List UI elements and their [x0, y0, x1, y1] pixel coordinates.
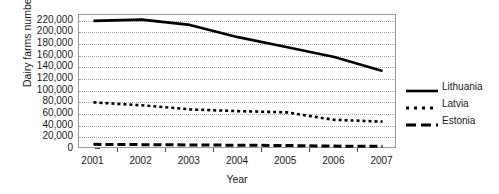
x-tick-label: 2003 [178, 155, 200, 167]
series-lines [79, 15, 397, 149]
series-line-latvia [93, 102, 382, 121]
y-tick-label: 40,000 [42, 120, 73, 130]
x-tick-label: 2005 [274, 155, 296, 167]
x-tick-label: 2004 [226, 155, 248, 167]
x-tick-mark [261, 148, 262, 152]
y-tick-label: 220,000 [37, 15, 73, 25]
x-axis-tick-marks [78, 148, 396, 153]
y-tick-label: 200,000 [37, 26, 73, 36]
dairy-farms-line-chart: Dairy farms number 020,00040,00060,00080… [0, 0, 499, 194]
legend-swatch-solid-icon [406, 82, 438, 92]
x-tick-mark [213, 148, 214, 152]
y-axis-tick-labels: 020,00040,00060,00080,000100,000120,0001… [22, 0, 76, 194]
plot-area [78, 14, 396, 148]
x-tick-label: 2001 [81, 155, 103, 167]
chart-legend: LithuaniaLatviaEstonia [406, 80, 498, 131]
series-line-estonia [93, 144, 382, 146]
legend-label: Estonia [442, 116, 475, 126]
y-tick-label: 160,000 [37, 50, 73, 60]
x-tick-label: 2002 [130, 155, 152, 167]
legend-swatch-dashed-icon [406, 116, 438, 126]
legend-item-estonia[interactable]: Estonia [406, 114, 498, 128]
y-tick-label: 140,000 [37, 61, 73, 71]
series-line-lithuania [93, 20, 382, 71]
y-tick-label: 120,000 [37, 73, 73, 83]
x-tick-mark [117, 148, 118, 152]
x-tick-mark [357, 148, 358, 152]
legend-label: Latvia [442, 99, 469, 109]
x-tick-mark [309, 148, 310, 152]
x-tick-label: 2006 [322, 155, 344, 167]
legend-item-lithuania[interactable]: Lithuania [406, 80, 498, 94]
legend-swatch-dotted-icon [406, 99, 438, 109]
legend-item-latvia[interactable]: Latvia [406, 97, 498, 111]
y-tick-label: 180,000 [37, 38, 73, 48]
y-tick-label: 0 [67, 143, 73, 153]
x-axis-tick-labels: 2001200220032004200520062007 [78, 155, 396, 169]
x-axis-title: Year [78, 173, 396, 185]
y-tick-label: 20,000 [42, 131, 73, 141]
y-tick-label: 80,000 [42, 96, 73, 106]
y-tick-label: 100,000 [37, 85, 73, 95]
x-tick-mark [165, 148, 166, 152]
x-tick-label: 2007 [370, 155, 392, 167]
y-tick-label: 60,000 [42, 108, 73, 118]
legend-label: Lithuania [442, 82, 483, 92]
